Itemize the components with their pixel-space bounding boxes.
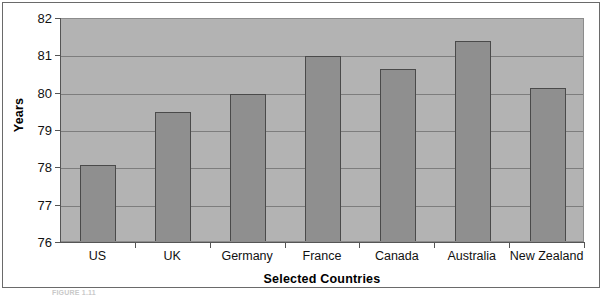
y-axis-title: Years (12, 85, 26, 145)
figure-container: 76777879808182 USUKGermanyFranceCanadaAu… (0, 0, 603, 296)
x-axis-line (60, 242, 585, 243)
figure-caption: FIGURE 1.11 (52, 289, 96, 296)
x-axis-tick-label: UK (135, 250, 210, 263)
bar (80, 165, 116, 242)
x-axis-tick (584, 243, 585, 248)
y-axis-line (60, 18, 61, 243)
y-axis-tick (55, 130, 60, 131)
y-axis-tick-label: 82 (20, 12, 52, 25)
x-axis-title: Selected Countries (60, 272, 584, 286)
x-axis-tick (135, 243, 136, 248)
y-axis-tick (55, 55, 60, 56)
x-axis-tick-label: France (285, 250, 360, 263)
bar (455, 41, 491, 242)
y-axis-tick-label: 76 (20, 236, 52, 249)
plot-area (60, 18, 584, 242)
y-axis-tick (55, 18, 60, 19)
bar (530, 88, 566, 242)
x-axis-tick (359, 243, 360, 248)
y-axis-tick-label: 77 (20, 199, 52, 212)
x-axis-tick-label: Australia (434, 250, 509, 263)
bar (230, 94, 266, 242)
x-axis-tick (434, 243, 435, 248)
bar (380, 69, 416, 242)
x-axis-tick-label: Germany (210, 250, 285, 263)
x-axis-tick-label: US (60, 250, 135, 263)
y-axis-tick-label: 78 (20, 161, 52, 174)
x-axis-tick-label: New Zealand (509, 250, 584, 263)
y-axis-tick-label: 81 (20, 49, 52, 62)
bar (155, 112, 191, 242)
x-axis-tick (210, 243, 211, 248)
x-axis-tick-label: Canada (359, 250, 434, 263)
x-axis-tick (285, 243, 286, 248)
bar (305, 56, 341, 242)
y-axis-tick (55, 167, 60, 168)
x-axis-tick (509, 243, 510, 248)
y-axis-tick (55, 93, 60, 94)
y-axis-tick (55, 205, 60, 206)
